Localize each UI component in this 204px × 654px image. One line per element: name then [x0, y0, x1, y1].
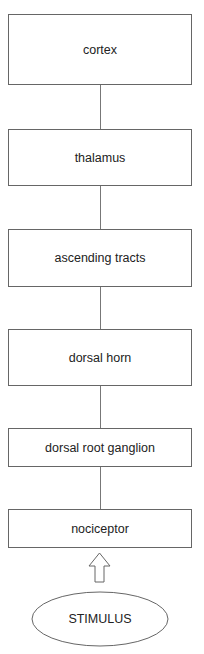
hollow-up-arrow-icon — [89, 553, 110, 582]
stimulus-label: STIMULUS — [68, 612, 131, 626]
stimulus-label-container: STIMULUS — [31, 592, 169, 646]
stimulus-graphics — [0, 0, 204, 654]
